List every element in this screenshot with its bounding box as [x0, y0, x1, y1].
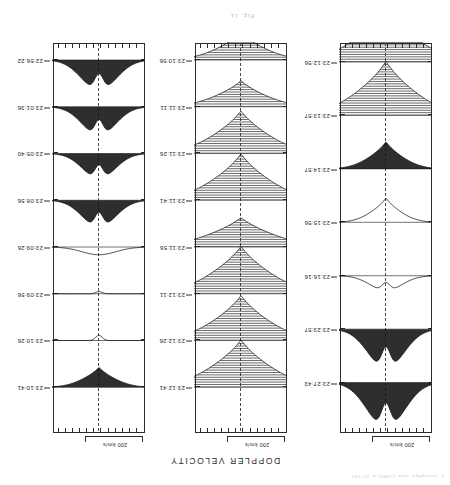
figure-sheet: J. Astrophys. Astr. (1983) 4, 97-105 DOP… — [0, 0, 450, 485]
time-label-leader — [44, 154, 50, 155]
time-label: 23:12:26 — [159, 339, 185, 345]
scalebar-middle: 200 km/s — [229, 435, 285, 451]
time-label: 23:27:43 — [304, 381, 330, 387]
time-label-leader — [186, 201, 192, 202]
time-label-leader — [44, 388, 50, 389]
time-label: 23:12:56 — [304, 60, 330, 66]
time-label-leader — [331, 383, 337, 384]
panel-middle: 200 km/s 23:12:4123:12:2623:12:1123:11:5… — [195, 43, 287, 433]
time-label: 23:11:56 — [160, 245, 185, 251]
time-label-leader — [186, 341, 192, 342]
time-label-leader — [44, 341, 50, 342]
plot-frame — [195, 43, 287, 433]
panel-right: 200 km/s 23:10:4123:10:2623:09:5623:09:2… — [53, 43, 145, 433]
time-label: 23:23:57 — [304, 327, 330, 333]
time-label: 23:15:56 — [304, 220, 330, 226]
time-label-leader — [44, 201, 50, 202]
time-label-leader — [186, 61, 192, 62]
time-label: 23:09:26 — [17, 245, 43, 251]
time-label: 23:14:57 — [304, 167, 330, 173]
time-label-leader — [186, 248, 192, 249]
page-title: DOPPLER VELOCITY — [0, 456, 450, 466]
time-label: 23:09:56 — [17, 292, 43, 298]
time-label-leader — [331, 276, 337, 277]
time-labels: 23:10:4123:10:2623:09:5623:09:2623:08:56… — [2, 43, 50, 433]
time-label-leader — [331, 116, 337, 117]
time-label-leader — [186, 107, 192, 108]
time-label: 23:10:26 — [17, 339, 43, 345]
time-label: 23:12:41 — [159, 385, 185, 391]
panel-left: 200 km/s 23:27:4323:23:5723:16:1623:15:5… — [340, 43, 432, 433]
time-label: 23:01:36 — [17, 105, 43, 111]
time-label: 23:08:56 — [17, 198, 43, 204]
scalebar-bar — [85, 436, 143, 442]
time-labels: 23:27:4323:23:5723:16:1623:15:5623:14:57… — [289, 43, 337, 433]
time-label: 23:13:57 — [304, 114, 330, 120]
time-label: 23:10:56 — [159, 58, 185, 64]
time-label-leader — [331, 169, 337, 170]
time-label: 23:16:16 — [304, 274, 330, 280]
time-label: 22:56:22 — [17, 58, 43, 64]
time-label-leader — [186, 388, 192, 389]
time-label: 23:12:11 — [160, 292, 185, 298]
time-label-leader — [331, 63, 337, 64]
scalebar-label: 200 km/s — [229, 442, 285, 448]
journal-header: J. Astrophys. Astr. (1983) 4, 97-105 — [351, 474, 444, 479]
time-label-leader — [331, 223, 337, 224]
time-labels: 23:12:4123:12:2623:12:1123:11:5623:11:41… — [144, 43, 192, 433]
scalebar-label: 200 km/s — [87, 442, 143, 448]
time-label-leader — [44, 294, 50, 295]
time-label-leader — [331, 330, 337, 331]
scalebar-bar — [372, 436, 430, 442]
scalebar-right: 200 km/s — [87, 435, 143, 451]
time-label: 23:10:41 — [17, 385, 43, 391]
scalebar-bar — [227, 436, 285, 442]
profile-traces — [52, 42, 144, 432]
profile-traces — [194, 42, 286, 432]
time-label-leader — [186, 154, 192, 155]
time-label: 23:05:40 — [17, 152, 43, 158]
time-label-leader — [44, 107, 50, 108]
time-label-leader — [44, 61, 50, 62]
plot-frame — [53, 43, 145, 433]
scalebar-label: 200 km/s — [374, 442, 430, 448]
time-label: 23:11:26 — [160, 152, 185, 158]
figure-caption: Fig. 1a — [230, 13, 254, 19]
profile-traces — [339, 42, 431, 432]
time-label: 23:11:11 — [160, 105, 185, 111]
time-label-leader — [186, 294, 192, 295]
plot-frame — [340, 43, 432, 433]
scalebar-left: 200 km/s — [374, 435, 430, 451]
time-label: 23:11:41 — [160, 198, 185, 204]
time-label-leader — [44, 248, 50, 249]
